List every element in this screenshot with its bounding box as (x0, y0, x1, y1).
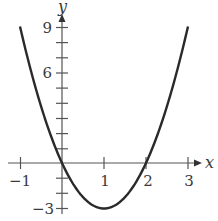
x-tick-label-2: 2 (143, 172, 153, 190)
parabola-curve (20, 28, 62, 127)
x-axis-label: x (205, 153, 214, 172)
parabola-chart: −1 1 2 3 9 6 −3 x y (0, 0, 218, 221)
y-tick-label-neg3: −3 (32, 200, 54, 218)
x-tick-label-1: 1 (100, 172, 110, 190)
x-tick-label-3: 3 (184, 172, 194, 190)
x-axis-arrow-icon (194, 160, 202, 167)
x-tick-label-neg1: −1 (9, 172, 31, 190)
y-tick-label-9: 9 (42, 19, 52, 37)
y-tick-label-6: 6 (42, 64, 52, 82)
y-axis-label: y (57, 0, 68, 16)
